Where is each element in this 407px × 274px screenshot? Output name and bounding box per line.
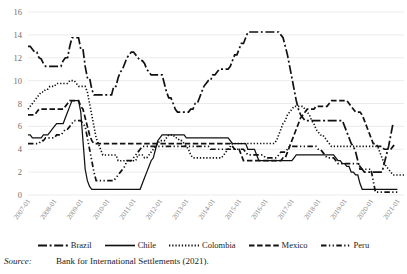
x-tick-label: 2008-01	[39, 197, 59, 221]
x-tick-label: 2011-01	[118, 197, 138, 221]
y-tick-label: 0	[18, 190, 22, 200]
x-tick-label: 2016-01	[250, 197, 270, 221]
legend-key-mexico	[249, 241, 279, 250]
chart-legend: BrazilChileColombiaMexicoPeru	[0, 238, 407, 252]
gridlines-group	[28, 12, 404, 195]
series-line-mexico	[28, 101, 395, 161]
source-note: Source: Bank for International Settlemen…	[4, 256, 404, 266]
legend-label: Chile	[138, 240, 156, 250]
x-tick-label: 2014-01	[197, 197, 217, 221]
y-axis-tick-labels: 0246810121416	[14, 7, 23, 200]
y-tick-label: 4	[18, 144, 23, 154]
series-line-chile	[28, 101, 397, 190]
y-tick-label: 2	[18, 167, 22, 177]
x-tick-label: 2013-01	[171, 197, 191, 221]
x-tick-label: 2017-01	[276, 197, 296, 221]
legend-key-brazil	[38, 241, 68, 250]
x-tick-label: 2009-01	[65, 197, 85, 221]
x-tick-label: 2015-01	[223, 197, 243, 221]
y-tick-label: 14	[14, 30, 23, 40]
legend-label: Mexico	[282, 240, 308, 250]
y-tick-label: 6	[18, 121, 22, 131]
x-tick-label: 2010-01	[91, 197, 111, 221]
legend-key-chile	[105, 241, 135, 250]
policy-rate-line-chart: 0246810121416 2007-012008-012009-012010-…	[0, 0, 407, 232]
legend-item-brazil[interactable]: Brazil	[38, 240, 92, 250]
legend-label: Brazil	[71, 240, 92, 250]
series-line-peru	[28, 121, 397, 192]
x-tick-label: 2021-01	[382, 197, 402, 221]
legend-key-colombia	[169, 241, 199, 250]
x-tick-label: 2020-01	[355, 197, 375, 221]
legend-label: Peru	[354, 240, 370, 250]
source-label: Source:	[4, 256, 46, 266]
legend-item-chile[interactable]: Chile	[105, 240, 156, 250]
legend-label: Colombia	[202, 240, 236, 250]
x-tick-label: 2018-01	[302, 197, 322, 221]
legend-key-peru	[321, 241, 351, 250]
data-series-group	[28, 32, 404, 192]
series-line-brazil	[28, 32, 393, 172]
legend-item-mexico[interactable]: Mexico	[249, 240, 308, 250]
chart-plot-area: 0246810121416 2007-012008-012009-012010-…	[0, 0, 407, 232]
x-tick-label: 2019-01	[329, 197, 349, 221]
legend-item-peru[interactable]: Peru	[321, 240, 370, 250]
x-axis-tick-labels: 2007-012008-012009-012010-012011-012012-…	[12, 197, 402, 221]
y-tick-label: 10	[14, 76, 23, 86]
x-tick-label: 2012-01	[144, 197, 164, 221]
legend-item-colombia[interactable]: Colombia	[169, 240, 236, 250]
y-tick-label: 16	[14, 7, 23, 17]
source-text: Bank for International Settlements (2021…	[56, 256, 209, 266]
x-tick-label: 2007-01	[12, 197, 32, 221]
y-tick-label: 12	[14, 53, 23, 63]
y-tick-label: 8	[18, 99, 22, 109]
